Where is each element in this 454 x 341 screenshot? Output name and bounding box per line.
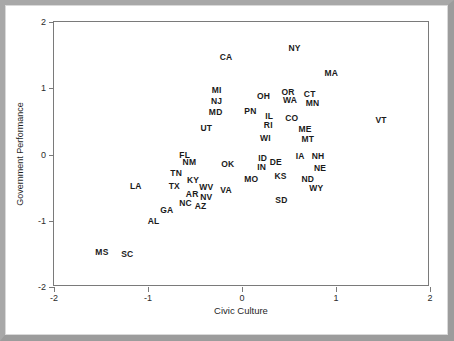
data-point-id: ID (258, 154, 267, 163)
data-point-nd: ND (301, 175, 314, 184)
data-point-nv: NV (200, 193, 212, 202)
data-point-wy: WY (309, 184, 323, 193)
data-point-ks: KS (274, 172, 286, 181)
x-axis-tick (148, 287, 149, 292)
data-point-az: AZ (195, 202, 207, 211)
data-point-co: CO (285, 114, 298, 123)
y-axis-tick (49, 22, 54, 23)
x-axis-tick (430, 287, 431, 292)
x-axis-tick-label: 1 (333, 294, 338, 303)
y-axis-label-text: Government Performance (15, 102, 25, 206)
x-axis-tick-label: 2 (427, 294, 432, 303)
data-point-ky: KY (187, 176, 199, 185)
y-axis-tick (49, 88, 54, 89)
data-point-ri: RI (264, 121, 273, 130)
data-point-mi: MI (212, 86, 222, 95)
data-point-ne: NE (314, 164, 326, 173)
y-axis-tick-label: 1 (41, 84, 46, 93)
data-point-ny: NY (289, 44, 301, 53)
data-point-ms: MS (95, 248, 108, 257)
x-axis-tick-label: -1 (144, 294, 152, 303)
data-point-nc: NC (179, 199, 192, 208)
x-axis-tick-label: 0 (239, 294, 244, 303)
y-axis-tick-label: 2 (41, 18, 46, 27)
data-point-tn: TN (170, 169, 182, 178)
y-axis-tick-label: -1 (38, 216, 46, 225)
data-point-ut: UT (200, 124, 212, 133)
data-point-va: VA (220, 186, 232, 195)
data-point-mo: MO (244, 175, 258, 184)
data-point-ca: CA (220, 53, 233, 62)
scatter-plot-area: 210-1-2-2-1012NYCAMAMIORCTOHWANJMNMDPNIL… (53, 21, 429, 286)
x-axis-tick (54, 287, 55, 292)
data-point-wv: WV (199, 183, 213, 192)
data-point-nj: NJ (211, 97, 222, 106)
data-point-pn: PN (244, 107, 256, 116)
data-point-de: DE (270, 158, 282, 167)
data-point-oh: OH (257, 92, 270, 101)
data-point-nh: NH (312, 152, 325, 161)
data-point-vt: VT (375, 116, 386, 125)
data-point-nm: NM (183, 158, 197, 167)
x-axis-tick (336, 287, 337, 292)
y-axis-tick (49, 155, 54, 156)
x-axis-tick (242, 287, 243, 292)
x-axis-tick-label: -2 (50, 294, 58, 303)
data-point-mt: MT (301, 135, 314, 144)
y-axis-tick-label: -2 (38, 283, 46, 292)
data-point-me: ME (298, 124, 311, 133)
x-axis-label: Civic Culture (53, 305, 429, 316)
data-point-wa: WA (283, 95, 297, 104)
data-point-in: IN (257, 163, 266, 172)
data-point-ar: AR (186, 189, 199, 198)
y-axis-tick-label: 0 (41, 150, 46, 159)
data-point-sd: SD (275, 195, 287, 204)
data-point-al: AL (148, 217, 160, 226)
data-point-ga: GA (160, 206, 173, 215)
data-point-mn: MN (306, 99, 320, 108)
data-point-il: IL (265, 112, 273, 121)
data-point-tx: TX (169, 181, 180, 190)
data-point-la: LA (130, 181, 142, 190)
figure-canvas: 210-1-2-2-1012NYCAMAMIORCTOHWANJMNMDPNIL… (5, 5, 448, 335)
data-point-ct: CT (304, 89, 316, 98)
data-point-ok: OK (221, 160, 234, 169)
data-point-sc: SC (121, 250, 133, 259)
y-axis-label: Government Performance (14, 21, 26, 286)
data-point-ma: MA (324, 69, 338, 78)
y-axis-tick (49, 221, 54, 222)
data-point-wi: WI (260, 134, 271, 143)
figure-outer-border: 210-1-2-2-1012NYCAMAMIORCTOHWANJMNMDPNIL… (0, 0, 454, 341)
data-point-ia: IA (296, 152, 305, 161)
data-point-md: MD (209, 108, 223, 117)
